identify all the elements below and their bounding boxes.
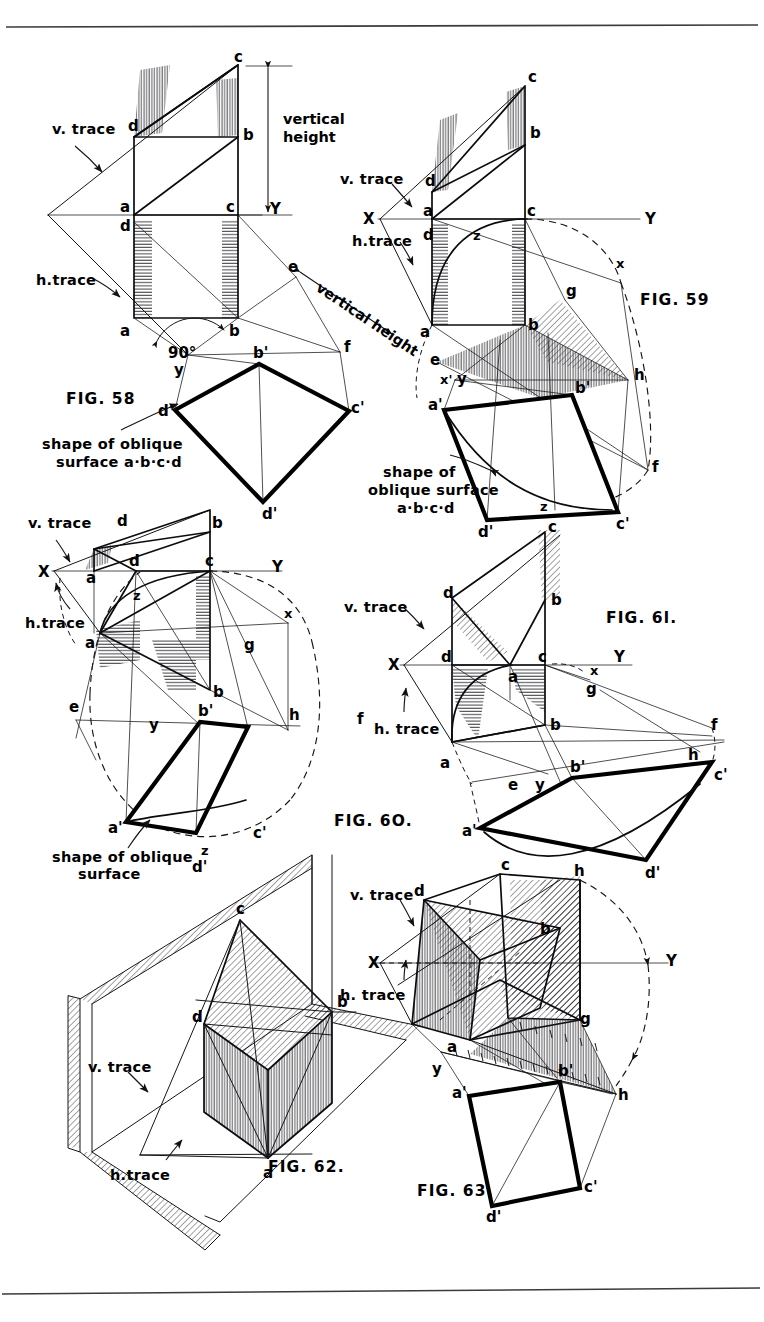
fig59-proj-1 (432, 219, 621, 283)
fig62-h-trace-label: h.trace (110, 1167, 170, 1183)
fig59-dash-arc-top (525, 219, 621, 283)
fig58-pt-a-mid: a (120, 198, 130, 216)
fig60-pt-a1: a (86, 569, 96, 587)
fig58-vtrace-leader (75, 146, 102, 172)
fig63-v-trace-label: v. trace (350, 887, 414, 903)
fig58-figure-label: FIG. 58 (66, 390, 136, 408)
fig59-shape-label-3: a·b·c·d (397, 500, 455, 516)
fig59-pt-b: b (530, 124, 541, 142)
fig58-pt-d-top: d (128, 117, 139, 135)
fig59-shape-label-1: shape of (383, 464, 456, 480)
fig58-hatch-elev-left (134, 65, 170, 137)
fig61-figure-label: FIG. 6l. (606, 609, 677, 627)
figure-62: v. trace h.trace FIG. 62. c b d a (68, 855, 420, 1250)
fig59-proj-3 (525, 219, 565, 300)
fig59-pt-cp: c' (616, 515, 629, 533)
fig61-pt-d1: d (441, 648, 452, 666)
drawing-plate: v. trace h.trace vertical height vertica… (0, 0, 764, 1322)
fig60-elev-db (94, 532, 210, 549)
fig63-X-label: X (368, 954, 380, 972)
fig61-X-label: X (388, 656, 400, 674)
fig58-Y-label: Y (269, 200, 282, 218)
fig60-pt-d1: d (129, 552, 140, 570)
fig61-proj-c-f (545, 665, 712, 728)
fig59-X-label: X (363, 210, 375, 228)
fig59-pt-c: c (528, 68, 537, 86)
fig61-pt-h: h (688, 746, 699, 764)
fig58-angle-arc (157, 318, 224, 341)
fig60-pt-b-top: b (212, 514, 223, 532)
fig58-pt-bp: b' (253, 344, 268, 362)
fig58-pt-ap: d' (158, 402, 173, 420)
fig61-pt-y: y (535, 776, 545, 794)
fig63-pt-h2: h (618, 1086, 629, 1104)
fig59-hatch-plan-right (512, 224, 525, 325)
fig60-elev-diag (94, 532, 210, 571)
fig60-line-e-f (76, 720, 300, 726)
fig59-pt-bp: b' (575, 379, 590, 397)
top-rule (6, 25, 758, 27)
fig60-pt-g: g (244, 636, 255, 654)
fig59-v-trace-label: v. trace (340, 171, 404, 187)
fig58-pt-e: e (288, 258, 298, 276)
fig58-shape-label-2: surface a·b·c·d (56, 454, 182, 470)
fig63-Y-label: Y (665, 952, 678, 970)
fig60-pt-c1: c (205, 552, 214, 570)
fig63-figure-label: FIG. 63. (417, 1182, 494, 1200)
fig63-pt-b: b (540, 920, 551, 938)
fig58-pt-cp: c' (351, 399, 364, 417)
fig58-angle-label: 90° (168, 344, 196, 362)
fig61-h-trace-label: h. trace (374, 721, 440, 737)
fig61-plan-a-b (452, 725, 545, 742)
fig61-pt-b-top: b (551, 591, 562, 609)
figure-59: v. trace h.trace FIG. 59 shape of obliqu… (340, 68, 710, 541)
fig60-pt-f: f (357, 710, 364, 728)
fig63-arc-2 (632, 965, 649, 1060)
fig62-pt-d: d (192, 1008, 203, 1026)
fig60-proj-c-h (210, 571, 248, 728)
fig58-pt-f: f (344, 338, 351, 356)
fig59-shape-label-2: oblique surface (368, 482, 499, 498)
fig58-elev-diag (134, 137, 238, 215)
fig60-proj-c-x (210, 571, 288, 623)
fig60-pt-dp: d' (192, 858, 207, 876)
fig58-pt-c-top: c (234, 48, 243, 66)
fig63-pt-g: g (580, 1010, 591, 1028)
fig62-figure-label: FIG. 62. (268, 1158, 345, 1176)
fig59-h-trace-label: h.trace (352, 233, 412, 249)
fig61-proj-b-f (545, 725, 712, 736)
fig59-pt-dp: d' (478, 523, 493, 541)
fig61-dash-a-y (452, 742, 472, 784)
fig60-pt-b2: b (213, 683, 224, 701)
fig60-x2-label: x (284, 606, 293, 621)
fig61-htrace-leader (404, 688, 406, 712)
fig61-proj-g-h (600, 690, 700, 752)
fig60-pt-z2: z (201, 843, 209, 858)
fig58-pt-b-top: b (243, 126, 254, 144)
fig61-pt-f: f (711, 716, 718, 734)
fig61-x2-label: x (590, 663, 599, 678)
fig58-pt-a-bot: a (120, 322, 130, 340)
plate-canvas: v. trace h.trace vertical height vertica… (0, 0, 764, 1322)
fig60-shape-label-1: shape of oblique (52, 849, 193, 865)
fig60-figure-label: FIG. 6O. (334, 812, 413, 830)
fig58-vh-label-1: vertical (283, 111, 345, 127)
fig59-pt-z1: z (473, 228, 481, 243)
fig63-pt-a: a (447, 1038, 457, 1056)
fig61-pt-c1: c (538, 648, 547, 666)
fig60-htrace-leader (56, 583, 70, 609)
fig59-pt-b2: b (528, 316, 539, 334)
fig62-vtrace-leader (128, 1072, 148, 1092)
fig63-pt-cp: c' (584, 1178, 597, 1196)
fig60-X-label: X (38, 563, 50, 581)
fig61-pt-e: e (508, 776, 518, 794)
fig60-e-tick (76, 720, 96, 760)
fig61-pt-dp: d' (645, 864, 660, 882)
fig63-edge-d-c (424, 874, 500, 900)
fig63-pt-c: c (501, 856, 510, 874)
fig60-pt-bp: b' (198, 702, 213, 720)
fig62-pt-c: c (236, 900, 245, 918)
fig59-figure-label: FIG. 59 (640, 291, 710, 309)
fig60-hatch-plan-mid (152, 640, 196, 690)
fig58-hatch-plan-right (222, 220, 238, 318)
